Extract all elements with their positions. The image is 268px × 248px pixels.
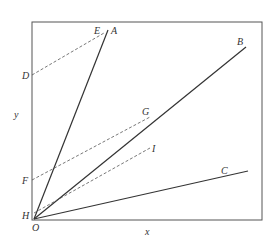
label-g: G xyxy=(142,106,149,117)
label-origin: O xyxy=(32,222,39,233)
label-e: E xyxy=(93,25,100,36)
label-b: B xyxy=(237,36,243,47)
plot-frame xyxy=(32,22,262,220)
label-h: H xyxy=(21,210,30,221)
diagram: A B C E D F G H I O x y xyxy=(0,0,268,248)
dashed-hi xyxy=(34,148,150,213)
y-axis-label: y xyxy=(13,109,19,120)
line-a xyxy=(34,30,108,219)
label-i: I xyxy=(151,143,156,154)
label-a: A xyxy=(110,25,118,36)
label-d: D xyxy=(21,70,30,81)
dashed-fg xyxy=(32,117,150,180)
label-f: F xyxy=(21,175,29,186)
label-c: C xyxy=(221,165,228,176)
x-axis-label: x xyxy=(144,226,150,237)
line-b xyxy=(34,47,246,219)
